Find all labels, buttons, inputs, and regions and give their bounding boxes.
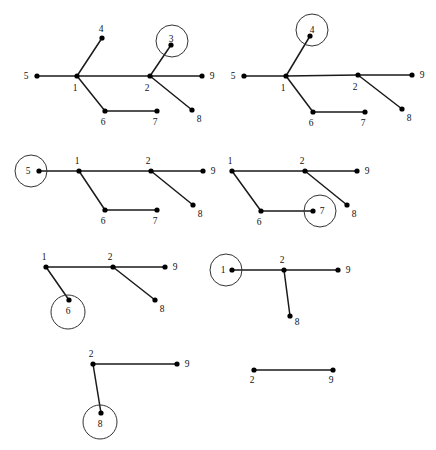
prufer-sequence-figure: 5142398675142986751298671298671298612982… [0,0,436,450]
tree-node-1 [43,264,48,269]
tree-edge-1-4 [286,36,310,76]
tree-edge-1-6 [77,76,105,111]
tree-edge-2-8 [305,171,347,205]
node-label-2: 2 [250,375,255,385]
tree-node-8 [98,410,103,415]
node-label-8: 8 [295,317,300,327]
node-label-1: 1 [73,83,78,93]
tree-node-1 [74,73,79,78]
tree-node-2 [110,264,115,269]
step-4-remove-7: 129867 [228,156,370,227]
node-label-1: 1 [42,252,47,262]
tree-node-7 [310,208,315,213]
tree-node-8 [399,106,404,111]
node-label-1: 1 [281,83,286,93]
tree-node-2 [251,367,256,372]
node-label-5: 5 [231,71,236,81]
node-label-2: 2 [108,252,113,262]
tree-node-1 [229,267,234,272]
tree-node-2 [90,361,95,366]
tree-node-2 [147,73,152,78]
node-label-2: 2 [280,255,285,265]
tree-node-6 [66,297,71,302]
tree-edge-2-8 [113,267,155,300]
node-label-6: 6 [101,117,106,127]
tree-edge-2-3 [150,45,171,76]
node-label-8: 8 [407,113,412,123]
tree-node-8 [189,107,194,112]
tree-node-9 [409,72,414,77]
tree-node-8 [287,313,292,318]
step-5-remove-6: 12986 [42,252,178,329]
node-label-9: 9 [420,70,425,80]
tree-node-9 [200,168,205,173]
tree-node-8 [190,202,195,207]
node-label-7: 7 [361,118,366,128]
tree-edge-1-6 [232,171,261,211]
tree-node-7 [362,109,367,114]
node-label-8: 8 [160,304,165,314]
node-label-1: 1 [75,156,80,166]
node-label-2: 2 [145,83,150,93]
tree-node-2 [355,72,360,77]
tree-node-8 [152,297,157,302]
node-label-6: 6 [257,217,262,227]
tree-node-2 [148,168,153,173]
node-label-4: 4 [310,25,315,35]
node-label-1: 1 [221,265,226,275]
step-3-remove-5: 5129867 [15,155,216,226]
tree-node-6 [258,208,263,213]
tree-node-8 [344,202,349,207]
node-label-9: 9 [329,375,334,385]
tree-node-5 [241,73,246,78]
tree-node-9 [162,264,167,269]
node-label-9: 9 [346,265,351,275]
tree-node-5 [34,73,39,78]
tree-node-6 [310,109,315,114]
node-label-8: 8 [352,209,357,219]
node-label-7: 7 [153,117,158,127]
tree-node-7 [154,108,159,113]
step-1-full-tree: 514239867 [24,24,215,127]
tree-node-4 [99,35,104,40]
step-8-final-edge: 29 [250,367,336,385]
tree-node-6 [102,108,107,113]
tree-node-1 [76,168,81,173]
node-label-9: 9 [185,359,190,369]
tree-edge-2-8 [358,75,402,109]
node-label-7: 7 [153,216,158,226]
tree-edge-2-8 [150,76,192,110]
node-label-1: 1 [228,156,233,166]
node-label-8: 8 [198,209,203,219]
tree-pruning-diagram: 5142398675142986751298671298671298612982… [0,0,436,450]
tree-node-9 [335,267,340,272]
node-label-6: 6 [309,118,314,128]
node-label-2: 2 [89,349,94,359]
tree-node-7 [154,207,159,212]
node-label-9: 9 [211,166,216,176]
step-6-remove-1: 1298 [210,254,351,327]
tree-node-9 [330,367,335,372]
tree-node-9 [354,168,359,173]
step-7-remove-8: 298 [83,349,190,439]
tree-node-9 [199,73,204,78]
node-label-9: 9 [365,166,370,176]
tree-node-2 [281,267,286,272]
tree-node-5 [36,168,41,173]
node-label-9: 9 [173,262,178,272]
node-label-3: 3 [169,34,174,44]
node-label-8: 8 [98,419,103,429]
node-label-2: 2 [146,156,151,166]
node-label-2: 2 [353,82,358,92]
step-2-remove-4: 51429867 [231,14,425,128]
node-label-7: 7 [320,206,325,216]
tree-node-6 [102,207,107,212]
node-label-4: 4 [99,24,104,34]
tree-edge-1-6 [79,171,105,210]
tree-edge-2-8 [151,171,193,205]
node-label-8: 8 [197,114,202,124]
tree-node-1 [229,168,234,173]
node-label-5: 5 [26,166,31,176]
tree-node-9 [174,361,179,366]
node-label-6: 6 [66,306,71,316]
